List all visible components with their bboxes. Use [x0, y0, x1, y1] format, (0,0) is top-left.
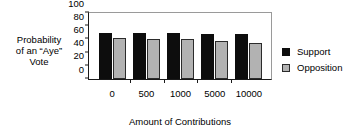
- bar-opposition-500: [147, 39, 160, 79]
- legend-label: Opposition: [297, 63, 342, 73]
- legend-item-opposition: Opposition: [282, 60, 342, 76]
- bar-groups: [89, 13, 271, 79]
- y-axis-title: Probability of an “Aye” Vote: [4, 34, 74, 67]
- y-tick-label: 60: [73, 25, 89, 35]
- bar-group: [231, 13, 265, 79]
- y-axis-title-line-1: Probability: [4, 34, 74, 45]
- x-tick-mark: [164, 79, 165, 83]
- y-tick-label: 80: [73, 12, 89, 22]
- bar-chart-figure: Probability of an “Aye” Vote 02040608010…: [0, 0, 364, 140]
- bar-support-10000: [235, 34, 248, 79]
- plot-area: 020406080100: [88, 12, 272, 80]
- bar-support-1000: [167, 33, 180, 79]
- y-tick-label: 40: [73, 38, 89, 48]
- x-tick-label: 500: [129, 88, 163, 99]
- bar-opposition-10000: [249, 43, 262, 79]
- legend-swatch-icon: [282, 64, 290, 72]
- x-tick-label: 5000: [198, 88, 232, 99]
- x-axis-tick-labels: 05001000500010000: [88, 88, 272, 99]
- x-tick-mark: [197, 79, 198, 83]
- x-tick-label: 1000: [163, 88, 197, 99]
- x-axis-title: Amount of Contributions: [88, 116, 272, 127]
- bar-group: [96, 13, 130, 79]
- y-tick-label: 0: [79, 65, 89, 75]
- x-tick-mark: [231, 79, 232, 83]
- legend-label: Support: [297, 47, 330, 57]
- legend-swatch-icon: [282, 48, 290, 56]
- x-tick-label: 0: [95, 88, 129, 99]
- bar-group: [197, 13, 231, 79]
- bar-support-500: [133, 33, 146, 79]
- bar-support-0: [99, 33, 112, 79]
- y-axis-title-line-2: of an “Aye”: [4, 45, 74, 56]
- x-tick-mark: [130, 79, 131, 83]
- chart-legend: SupportOpposition: [282, 44, 342, 76]
- x-tick-label: 10000: [232, 88, 266, 99]
- bar-group: [164, 13, 198, 79]
- bar-opposition-5000: [215, 41, 228, 79]
- legend-item-support: Support: [282, 44, 342, 60]
- bar-opposition-1000: [181, 39, 194, 79]
- bar-opposition-0: [113, 38, 126, 79]
- bar-group: [130, 13, 164, 79]
- y-tick-label: 100: [68, 0, 89, 8]
- y-tick-label: 20: [73, 52, 89, 62]
- y-axis-title-line-3: Vote: [4, 56, 74, 67]
- bar-support-5000: [201, 34, 214, 79]
